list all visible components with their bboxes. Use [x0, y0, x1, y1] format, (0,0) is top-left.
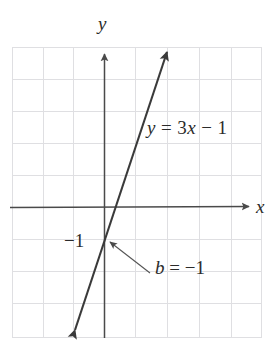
- b-value-callout-label: b = −1: [155, 258, 205, 277]
- y-axis-label: y: [98, 14, 106, 33]
- b-value: −1: [185, 257, 205, 278]
- equation-constant: 1: [217, 117, 227, 138]
- x-axis: [10, 207, 249, 208]
- x-axis-label: x: [256, 197, 264, 216]
- graph-svg: [0, 0, 268, 358]
- figure-canvas: y x y = 3x − 1 −1 b = −1: [0, 0, 268, 358]
- b-equals: =: [169, 257, 180, 278]
- equation-lhs: y: [147, 117, 156, 138]
- grid-lines: [12, 47, 262, 338]
- y-intercept-tick-label: −1: [64, 231, 84, 250]
- equation-minus: −: [201, 117, 212, 138]
- equation-label: y = 3x − 1: [147, 118, 227, 137]
- equation-slope-term: 3x: [177, 117, 196, 138]
- callout-leader-line: [110, 242, 150, 273]
- equation-line: [75, 52, 167, 330]
- equation-equals: =: [161, 117, 172, 138]
- b-symbol: b: [155, 257, 165, 278]
